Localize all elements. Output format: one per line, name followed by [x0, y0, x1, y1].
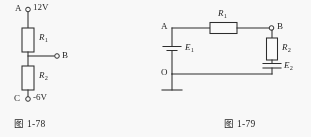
node-label-c: C — [14, 94, 20, 103]
component-label-r1: R1 — [39, 33, 48, 42]
figure-1-79: A R1 B E1 R2 E2 O 图 1-79 — [150, 0, 311, 137]
component-label-r1: R1 — [218, 9, 227, 18]
voltage-label-a: 12V — [33, 3, 49, 12]
terminal-c-node — [26, 97, 31, 102]
node-label-b: B — [277, 22, 283, 31]
resistor-r1-body — [210, 23, 237, 34]
figure-1-78: A 12V R1 B R2 C -6V 图 1-78 — [0, 0, 150, 137]
component-label-e1: E1 — [185, 43, 194, 52]
node-label-a: A — [161, 22, 168, 31]
resistor-r2-body — [267, 38, 278, 60]
node-label-b: B — [62, 51, 68, 60]
circuit-schematic-1-79 — [150, 0, 311, 110]
figure-caption-1-78: 图 1-78 — [14, 116, 46, 130]
circuit-schematic-1-78 — [0, 0, 150, 110]
component-label-r2: R2 — [39, 71, 48, 80]
component-label-e2: E2 — [284, 61, 293, 70]
resistor-r1-body — [22, 28, 34, 52]
resistor-r2-body — [22, 66, 34, 90]
voltage-label-c: -6V — [33, 93, 47, 102]
component-label-r2: R2 — [282, 43, 291, 52]
terminal-b-node — [55, 54, 60, 59]
figure-caption-1-79: 图 1-79 — [224, 116, 256, 130]
node-label-o: O — [161, 68, 168, 77]
figure-page: A 12V R1 B R2 C -6V 图 1-78 — [0, 0, 311, 137]
terminal-a-node — [26, 7, 31, 12]
node-label-a: A — [15, 4, 22, 13]
